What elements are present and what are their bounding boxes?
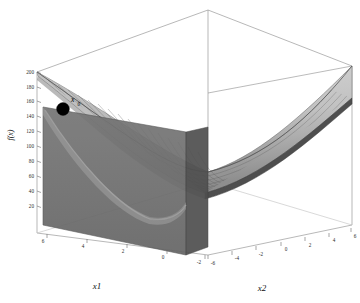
z-tick-200: 200: [26, 69, 34, 75]
z-tick-20: 20: [29, 203, 35, 209]
z-tick-120: 120: [26, 128, 34, 134]
x1-axis-title: x1: [92, 281, 102, 291]
x2-tick-4: 4: [333, 237, 336, 243]
x2-tick-6: 6: [354, 233, 357, 239]
z-tick-140: 140: [26, 113, 34, 119]
x2-axis-title: x2: [257, 283, 267, 293]
z-tick-100: 100: [26, 143, 34, 149]
z-tick-80: 80: [29, 158, 35, 164]
x2-tick-0: 0: [285, 246, 288, 252]
x1-tick-4: 4: [82, 243, 85, 249]
x1-tick-2: 2: [122, 248, 125, 254]
x2-tick--2: -2: [259, 251, 264, 257]
z-tick-40: 40: [29, 188, 35, 194]
surface-plot-figure: x 0 200 180 160 140 120 100 80 60 40 20 …: [0, 0, 360, 303]
x2-tick-2: 2: [309, 242, 312, 248]
z-axis-title: f(x): [6, 129, 15, 140]
marker-label-subscript: 0: [78, 101, 81, 107]
x1-tick-6: 6: [42, 238, 45, 244]
marker-point-dot: [57, 103, 70, 116]
x2-tick--4: -4: [235, 255, 240, 261]
marker-label: x: [70, 95, 75, 104]
z-tick-180: 180: [26, 84, 34, 90]
z-tick-160: 160: [26, 98, 34, 104]
z-tick-60: 60: [29, 173, 35, 179]
x1-tick--2: -2: [197, 259, 202, 265]
x1-tick-0: 0: [162, 254, 165, 260]
x2-tick--6: -6: [211, 260, 216, 266]
plot-canvas: x 0 200 180 160 140 120 100 80 60 40 20 …: [0, 0, 360, 303]
